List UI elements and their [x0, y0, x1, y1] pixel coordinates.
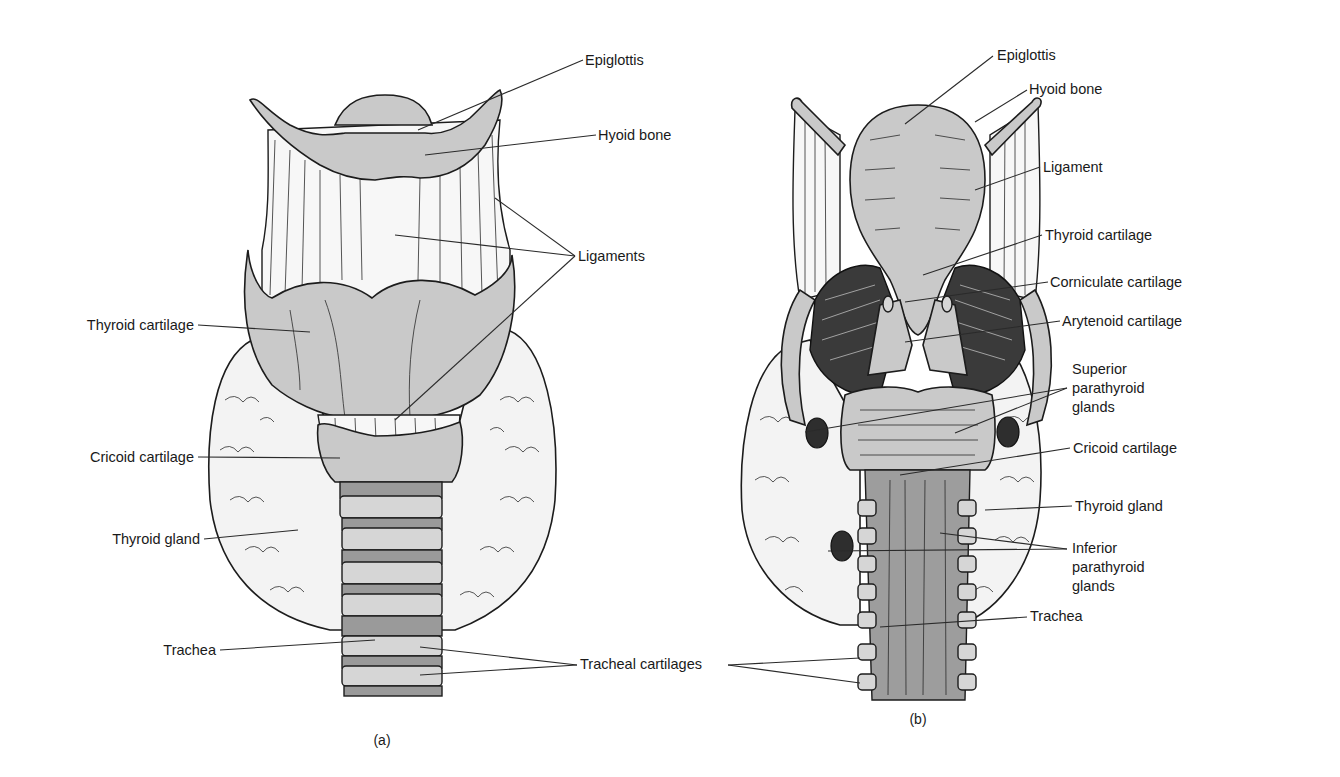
trachea-anterior: [340, 482, 442, 696]
cricoid-cartilage-posterior: [841, 387, 995, 470]
label-a-thyroid-cartilage: Thyroid cartilage: [87, 317, 194, 333]
label-a-epiglottis: Epiglottis: [585, 52, 644, 68]
label-a-trachea: Trachea: [163, 642, 217, 658]
caption-panel-b: (b): [909, 711, 926, 727]
leader-line-a-tracheal-cartilages: [728, 665, 860, 683]
leader-line-a-tracheal-cartilages: [420, 665, 577, 675]
corniculate-cartilage-right: [942, 296, 952, 312]
label-b-ligament: Ligament: [1043, 159, 1103, 175]
figure-larynx-thyroid: EpiglottisHyoid boneLigamentsThyroid car…: [0, 0, 1340, 777]
label-b-cricoid-cartilage: Cricoid cartilage: [1073, 440, 1177, 456]
label-a-thyroid-gland: Thyroid gland: [112, 531, 200, 547]
label-b-thyroid-cartilage: Thyroid cartilage: [1045, 227, 1152, 243]
label-b-hyoid-bone: Hyoid bone: [1029, 81, 1102, 97]
label-b-thyroid-gland: Thyroid gland: [1075, 498, 1163, 514]
panel-b-posterior-illustration: [741, 98, 1051, 700]
caption-panel-a: (a): [373, 732, 390, 748]
label-a-hyoid-bone: Hyoid bone: [598, 127, 671, 143]
superior-parathyroid-gland-right: [997, 417, 1019, 447]
superior-parathyroid-gland-left: [806, 418, 828, 448]
label-b-superior-parathyroid-glands: Superiorparathyroidglands: [1072, 361, 1145, 415]
inferior-parathyroid-gland-left: [831, 531, 853, 561]
label-a-tracheal-cartilages: Tracheal cartilages: [580, 656, 702, 672]
leader-line-a-tracheal-cartilages: [420, 647, 577, 665]
panel-a-anterior-illustration: [209, 90, 556, 696]
label-b-inferior-parathyroid-glands: Inferiorparathyroidglands: [1072, 540, 1145, 594]
label-b-arytenoid-cartilage: Arytenoid cartilage: [1062, 313, 1182, 329]
epiglottis-tip: [335, 95, 432, 125]
label-b-corniculate-cartilage: Corniculate cartilage: [1050, 274, 1182, 290]
label-a-ligaments: Ligaments: [578, 248, 645, 264]
label-b-trachea: Trachea: [1030, 608, 1084, 624]
corniculate-cartilage-left: [883, 296, 893, 312]
trachea-posterior: [865, 470, 970, 700]
label-b-epiglottis: Epiglottis: [997, 47, 1056, 63]
leader-line-a-tracheal-cartilages: [728, 658, 860, 665]
label-a-cricoid-cartilage: Cricoid cartilage: [90, 449, 194, 465]
